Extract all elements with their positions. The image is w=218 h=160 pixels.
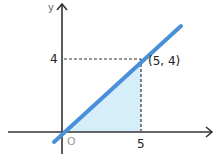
graph (0, 0, 218, 160)
x-tick-5: 5 (137, 138, 145, 150)
y-tick-4: 4 (50, 53, 58, 65)
y-axis-label: y (48, 3, 54, 13)
origin-label: O (67, 136, 76, 147)
point-label: (5, 4) (148, 55, 180, 67)
